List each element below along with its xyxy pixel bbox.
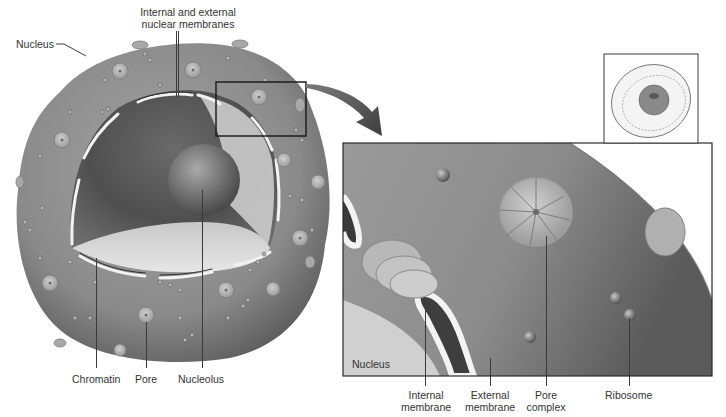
- leader-line: [202, 190, 203, 368]
- label-line: Internal and external: [118, 6, 258, 18]
- label-line: Pore: [522, 389, 570, 401]
- cell-overview-inset: [601, 53, 701, 148]
- leader-line: [546, 236, 547, 386]
- label-internal-membrane: Internal membrane: [400, 389, 452, 413]
- leader-line: [178, 31, 179, 97]
- leader-line: [96, 258, 97, 368]
- leader-line: [176, 31, 177, 97]
- label-line: membrane: [400, 401, 452, 413]
- label-nucleolus: Nucleolus: [178, 373, 224, 385]
- leader-line: [146, 322, 147, 368]
- label-pore-complex: Pore complex: [522, 389, 570, 413]
- leader-line: [0, 0, 100, 60]
- label-pore: Pore: [135, 373, 157, 385]
- detail-panel: [343, 143, 712, 376]
- nucleus-illustration: [0, 0, 726, 417]
- label-nuclear-membranes: Internal and external nuclear membranes: [118, 6, 258, 30]
- leader-line: [425, 310, 426, 386]
- leader-line: [490, 358, 491, 386]
- label-line: membrane: [464, 401, 516, 413]
- label-line: complex: [522, 401, 570, 413]
- label-detail-nucleus: Nucleus: [352, 358, 390, 370]
- label-line: nuclear membranes: [118, 18, 258, 30]
- label-chromatin: Chromatin: [72, 373, 120, 385]
- label-line: External: [464, 389, 516, 401]
- nucleus-body: [16, 40, 330, 362]
- label-line: Internal: [400, 389, 452, 401]
- leader-line: [629, 318, 630, 386]
- label-external-membrane: External membrane: [464, 389, 516, 413]
- pore-complex-top: [500, 178, 572, 246]
- label-ribosome: Ribosome: [605, 389, 652, 401]
